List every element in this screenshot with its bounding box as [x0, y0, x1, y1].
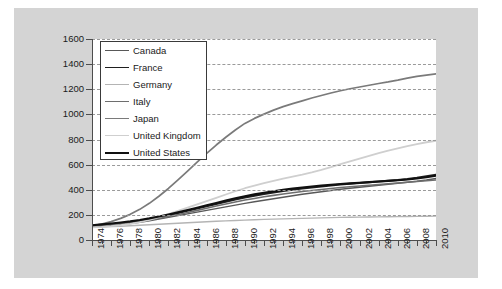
x-axis-tick-major — [302, 240, 303, 246]
y-axis-tick-label-text: 600 — [54, 160, 84, 170]
x-axis-tick-label: 1978 — [134, 228, 144, 249]
x-axis-tick-label: 1976 — [115, 228, 125, 249]
x-axis-tick-major — [188, 240, 189, 246]
y-axis-tick — [86, 215, 92, 216]
x-axis-tick-label: 1986 — [211, 228, 221, 249]
legend-item-label: United States — [133, 148, 190, 158]
legend-line-swatch — [105, 84, 129, 85]
legend-line-swatch — [105, 152, 129, 154]
legend-line-swatch — [105, 135, 129, 136]
x-axis-tick-major — [283, 240, 284, 246]
y-axis-tick-label: 800 — [48, 135, 84, 145]
y-axis-tick-label: 400 — [48, 185, 84, 195]
y-axis-tick-label: 600 — [48, 160, 84, 170]
y-axis-tick-label-text: 1600 — [54, 34, 84, 44]
legend-item-label: France — [133, 63, 163, 73]
x-axis-tick-major — [321, 240, 322, 246]
x-axis-tick-label: 1974 — [96, 228, 106, 249]
legend-item: Canada — [101, 42, 206, 59]
y-axis-tick-label-text: 0 — [54, 235, 84, 245]
x-axis-tick-major — [379, 240, 380, 246]
x-axis-tick-major — [398, 240, 399, 246]
gridline — [92, 215, 436, 216]
legend-item: United States — [101, 144, 206, 161]
x-axis-tick-major — [111, 240, 112, 246]
y-axis-tick-label-text: 400 — [54, 185, 84, 195]
x-axis-tick-label: 2004 — [383, 228, 393, 249]
x-axis-tick-label: 1996 — [306, 228, 316, 249]
x-axis-tick-label: 1994 — [287, 228, 297, 249]
x-axis-tick-major — [226, 240, 227, 246]
y-axis-tick — [86, 140, 92, 141]
y-axis-tick-label-text: 800 — [54, 135, 84, 145]
y-axis-tick — [86, 64, 92, 65]
x-axis-tick-label: 2002 — [364, 228, 374, 249]
gridline — [92, 165, 436, 166]
legend-line-swatch — [105, 50, 129, 51]
x-axis-tick-label: 2010 — [440, 228, 450, 249]
x-axis-tick-label: 2006 — [402, 228, 412, 249]
y-axis-spine — [92, 39, 93, 241]
x-axis-tick-major — [207, 240, 208, 246]
x-axis-tick-major — [149, 240, 150, 246]
x-axis-tick-major — [168, 240, 169, 246]
x-axis-tick-label: 1990 — [249, 228, 259, 249]
y-axis-tick-label: 1200 — [48, 84, 84, 94]
y-axis-tick-label: 1000 — [48, 109, 84, 119]
x-axis-tick-label: 2000 — [344, 228, 354, 249]
x-axis-tick-major — [360, 240, 361, 246]
chart-legend: CanadaFranceGermanyItalyJapanUnited King… — [100, 41, 207, 160]
legend-item-label: United Kingdom — [133, 131, 201, 141]
y-axis-tick-label: 1400 — [48, 59, 84, 69]
y-axis-tick-label-text: 200 — [54, 210, 84, 220]
legend-item: United Kingdom — [101, 127, 206, 144]
gridline — [92, 190, 436, 191]
y-axis-tick — [86, 190, 92, 191]
x-axis-tick-label: 1998 — [325, 228, 335, 249]
y-axis-tick — [86, 89, 92, 90]
x-axis-tick-label: 1992 — [268, 228, 278, 249]
x-axis-tick-label: 2008 — [421, 228, 431, 249]
y-axis-tick-label: 200 — [48, 210, 84, 220]
legend-item: France — [101, 59, 206, 76]
x-axis-tick-major — [92, 240, 93, 246]
y-axis-tick-label-text: 1000 — [54, 109, 84, 119]
legend-line-swatch — [105, 67, 129, 68]
x-axis-tick-major — [130, 240, 131, 246]
x-axis-tick-label: 1982 — [172, 228, 182, 249]
x-axis-tick-major — [340, 240, 341, 246]
y-axis-tick-label-text: 1200 — [54, 84, 84, 94]
x-axis-tick-major — [436, 240, 437, 246]
y-axis-tick-label: 0 — [48, 235, 84, 245]
y-axis-tick — [86, 39, 92, 40]
figure-canvas: 02004006008001000120014001600 1974197619… — [14, 8, 478, 278]
x-axis-tick-label: 1988 — [230, 228, 240, 249]
x-axis-tick-major — [417, 240, 418, 246]
gridline — [92, 39, 436, 40]
legend-item: Germany — [101, 76, 206, 93]
legend-item-label: Japan — [133, 114, 159, 124]
x-axis-tick-label: 1980 — [153, 228, 163, 249]
legend-item-label: Canada — [133, 46, 166, 56]
legend-line-swatch — [105, 101, 129, 102]
chart-screenshot: 02004006008001000120014001600 1974197619… — [0, 0, 502, 289]
legend-item: Italy — [101, 93, 206, 110]
legend-line-swatch — [105, 118, 129, 119]
x-axis-tick-major — [264, 240, 265, 246]
legend-item-label: Italy — [133, 97, 150, 107]
y-axis-tick — [86, 114, 92, 115]
y-axis-tick — [86, 165, 92, 166]
legend-item: Japan — [101, 110, 206, 127]
y-axis-tick-label-text: 1400 — [54, 59, 84, 69]
legend-item-label: Germany — [133, 80, 172, 90]
y-axis-tick-label: 1600 — [48, 34, 84, 44]
x-axis-tick-major — [245, 240, 246, 246]
x-axis-tick-label: 1984 — [192, 228, 202, 249]
